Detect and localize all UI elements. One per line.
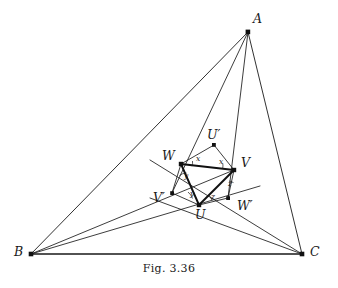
cevian-B-through-U-to-C-side — [31, 186, 260, 254]
figure-root: A B C U V W U′ V′ W′ x x y y z z Fig. 3.… — [0, 0, 338, 288]
cevian-C-through-V-to-W — [150, 160, 302, 254]
vertex-label-A: A — [253, 13, 262, 26]
vertex-dot-A — [246, 30, 251, 35]
geometry-diagram — [0, 0, 338, 288]
angle-label-x-at-W: x — [196, 155, 200, 163]
angle-label-z-at-U: z — [211, 193, 215, 201]
figure-caption: Fig. 3.36 — [0, 262, 338, 275]
vertex-dot-V-prime — [170, 191, 174, 195]
vertex-dot-U-prime — [212, 143, 216, 147]
vertex-label-V-prime: V′ — [153, 192, 165, 205]
edge-Uprime-V — [214, 145, 234, 170]
angle-label-x-at-V: x — [219, 158, 223, 166]
angle-label-y-at-W: y — [184, 172, 188, 180]
cevian-group — [31, 32, 302, 254]
vertex-label-W: W — [162, 150, 175, 163]
vertex-dot-V — [232, 168, 236, 172]
cevian-C-through-U-to-V-prime — [150, 198, 302, 254]
vertex-dot-W — [179, 162, 183, 166]
edge-W-V — [181, 164, 234, 170]
vertex-dot-C — [300, 252, 305, 257]
vertex-label-U-prime: U′ — [207, 129, 220, 142]
vertex-label-V: V — [241, 157, 250, 170]
arc-x-at-W — [192, 161, 193, 166]
vertex-dot-W-prime — [226, 196, 230, 200]
outer-triangle-group — [31, 32, 302, 254]
vertex-dot-group — [29, 30, 305, 257]
vertex-label-B: B — [14, 246, 23, 259]
vertex-dot-B — [29, 252, 34, 257]
angle-label-y-at-U: y — [190, 190, 194, 198]
angle-label-z-at-V: z — [228, 180, 232, 188]
vertex-label-W-prime: W′ — [237, 200, 253, 213]
vertex-label-C: C — [310, 246, 320, 259]
vertex-label-U: U — [195, 209, 206, 222]
inner-quadrilateral-group — [172, 145, 234, 205]
edge-C-A — [248, 32, 302, 254]
